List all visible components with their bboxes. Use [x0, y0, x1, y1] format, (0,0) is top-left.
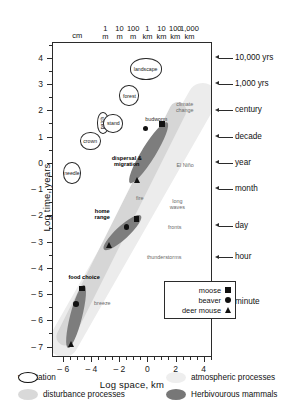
time-axis-arrowhead-icon: [215, 186, 219, 190]
time-axis-arrowhead-icon: [215, 223, 219, 227]
species-legend-circle-icon: [225, 297, 231, 303]
x-axis-tick: [91, 357, 92, 362]
x-axis-minor-tick: [190, 357, 191, 360]
legend-item-disturbance: disturbance processes: [18, 389, 166, 400]
data-point-food-choice-moose: [79, 286, 85, 292]
y-axis-minor-tick: [49, 45, 52, 46]
process-label-home-range: homerange: [95, 208, 110, 220]
species-legend-label: deer mouse: [182, 306, 221, 315]
top-scale-label: 10m: [115, 25, 123, 40]
vegetation-bubble-stand: stand: [103, 114, 123, 133]
vegetation-bubble-label: forest: [123, 93, 136, 99]
time-axis-label: 1,000 yrs: [235, 79, 269, 88]
x-axis-minor-tick: [133, 357, 134, 360]
process-label-fronts: fronts: [168, 224, 181, 230]
top-scale-label: 1,000km: [180, 25, 199, 40]
time-axis-label: decade: [235, 132, 262, 141]
time-axis-arrow: [219, 137, 233, 138]
time-axis-arrow: [219, 58, 233, 59]
y-axis-minor-tick: [49, 281, 52, 282]
y-axis-tick-label: – 5: [0, 289, 43, 299]
y-axis-tick-label: – 1: [0, 184, 43, 194]
data-point-home-range-deer-mouse: [106, 242, 112, 248]
disturbance-swatch-icon: [18, 389, 38, 400]
x-axis-minor-tick: [98, 357, 99, 360]
time-axis-label: minute: [235, 297, 260, 306]
top-scale-label: 100m: [127, 25, 140, 40]
data-point-home-range-beaver: [124, 224, 130, 230]
x-axis-minor-tick: [161, 357, 162, 360]
legend-label-disturbance: disturbance processes: [43, 390, 125, 399]
species-legend-triangle-icon: [225, 307, 231, 313]
vegetation-bubble-label: needle: [64, 170, 80, 176]
atmospheric-swatch-icon: [166, 372, 186, 383]
legend-item-herbivorous: Herbivourous mammals: [166, 389, 277, 400]
y-axis-minor-tick: [49, 71, 52, 72]
x-axis-minor-tick: [112, 357, 113, 360]
species-legend-row: beaver: [168, 295, 231, 305]
x-axis-minor-tick: [197, 357, 198, 360]
process-label-climate-change: climatechange: [176, 101, 194, 113]
vegetation-bubble-needle: needle: [63, 162, 81, 184]
time-axis-arrow: [219, 189, 233, 190]
vegetation-bubble-crown: crown: [80, 132, 101, 150]
y-axis-tick-label: 2: [0, 105, 43, 115]
time-axis-arrowhead-icon: [215, 81, 219, 85]
species-legend-label: beaver: [198, 296, 221, 305]
x-axis-minor-tick: [168, 357, 169, 360]
vegetation-bubble-label: stand: [107, 120, 120, 126]
x-axis-minor-tick: [154, 357, 155, 360]
time-axis-arrow: [219, 110, 233, 111]
y-axis-tick-label: – 7: [0, 342, 43, 352]
x-axis-tick: [119, 357, 120, 362]
time-axis-arrowhead-icon: [215, 255, 219, 259]
data-point-home-range-moose: [134, 216, 140, 222]
legend-label-atmospheric: atmospheric processes: [191, 373, 275, 382]
time-axis-arrow: [219, 226, 233, 227]
species-legend-square-icon: [225, 287, 231, 293]
y-axis-tick-label: – 3: [0, 237, 43, 247]
y-axis-tick-label: – 6: [0, 315, 43, 325]
time-axis-label: month: [235, 184, 258, 193]
y-axis-tick: [47, 110, 52, 111]
y-axis-tick: [47, 347, 52, 348]
x-axis-minor-tick: [183, 357, 184, 360]
y-axis-title: Log time, years: [41, 137, 52, 257]
top-scale-label: cm: [72, 32, 82, 40]
time-axis-arrow: [219, 84, 233, 85]
time-axis-label: year: [235, 158, 251, 167]
time-axis-arrowhead-icon: [215, 55, 219, 59]
process-label-el-ni-o: El Niño: [176, 162, 193, 168]
vegetation-bubble-landscape: landscape: [130, 58, 162, 80]
x-axis-minor-tick: [84, 357, 85, 360]
time-axis-arrowhead-icon: [215, 108, 219, 112]
data-point-budworm-moose: [159, 121, 165, 127]
figure-root: ↓cm↓1m↓10m↓100m↓1km↓10km↓100km↓1,000km n…: [0, 0, 300, 417]
y-axis-tick-label: – 4: [0, 263, 43, 273]
y-axis-tick: [47, 320, 52, 321]
y-axis-minor-tick: [49, 123, 52, 124]
time-axis-arrow: [219, 163, 233, 164]
y-axis-tick: [47, 84, 52, 85]
y-axis-tick-label: 0: [0, 158, 43, 168]
legend-label-herbivorous: Herbivourous mammals: [191, 390, 277, 399]
process-label-breeze: breeze: [94, 300, 110, 306]
time-axis-label: hour: [235, 252, 251, 261]
data-point-dispersal-migration-deer-mouse: [134, 177, 140, 183]
y-axis-minor-tick: [49, 307, 52, 308]
time-axis-arrowhead-icon: [215, 134, 219, 138]
y-axis-tick-label: 4: [0, 53, 43, 63]
x-axis-minor-tick: [77, 357, 78, 360]
vegetation-bubble-forest: forest: [119, 85, 139, 106]
time-axis-label: day: [235, 221, 248, 230]
x-axis-tick: [63, 357, 64, 362]
species-legend-row: deer mouse: [168, 305, 231, 315]
species-legend: moosebeaverdeer mouse: [164, 281, 236, 319]
data-point-food-choice-beaver: [73, 301, 79, 307]
time-axis-arrowhead-icon: [215, 160, 219, 164]
x-axis-minor-tick: [140, 357, 141, 360]
y-axis-tick-label: 1: [0, 132, 43, 142]
vegetation-bubble-label: crown: [83, 138, 97, 144]
y-axis-tick-label: 3: [0, 79, 43, 89]
top-scale-label: 1m: [102, 25, 108, 40]
